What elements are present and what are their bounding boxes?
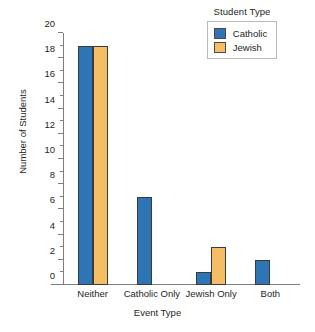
y-tick-label: 20 <box>44 19 55 29</box>
y-tick-label: 14 <box>44 95 55 105</box>
y-tick-label: 12 <box>44 120 55 130</box>
bar-group <box>241 260 300 285</box>
x-tick-label: Neither <box>77 288 108 299</box>
y-tick-label: 8 <box>50 170 55 180</box>
x-tick-label: Jewish Only <box>186 288 237 299</box>
y-tick-label: 10 <box>44 145 55 155</box>
y-tick-label: 4 <box>50 221 55 231</box>
bar <box>196 272 211 285</box>
bar <box>78 46 93 285</box>
y-axis-title: Number of Students <box>17 52 28 212</box>
bar-chart-figure: Student Type Catholic Jewish Number of S… <box>0 0 315 332</box>
y-tick-label: 6 <box>50 196 55 206</box>
bar <box>137 197 152 285</box>
bar-group <box>122 197 181 285</box>
x-tick-label: Catholic Only <box>124 288 181 299</box>
y-tick-label: 18 <box>44 44 55 54</box>
bar <box>255 260 270 285</box>
bar-group <box>63 46 122 285</box>
plot-area: 02468101214161820 <box>63 33 300 285</box>
y-tick-label: 0 <box>50 271 55 281</box>
bar <box>211 247 226 285</box>
y-tick-label: 16 <box>44 70 55 80</box>
x-axis-title: Event Type <box>0 307 315 318</box>
y-tick-major <box>58 32 63 33</box>
bar-group <box>182 247 241 285</box>
bar <box>93 46 108 285</box>
x-tick-label: Both <box>261 288 281 299</box>
y-tick-label: 2 <box>50 246 55 256</box>
legend-title: Student Type <box>176 6 308 17</box>
